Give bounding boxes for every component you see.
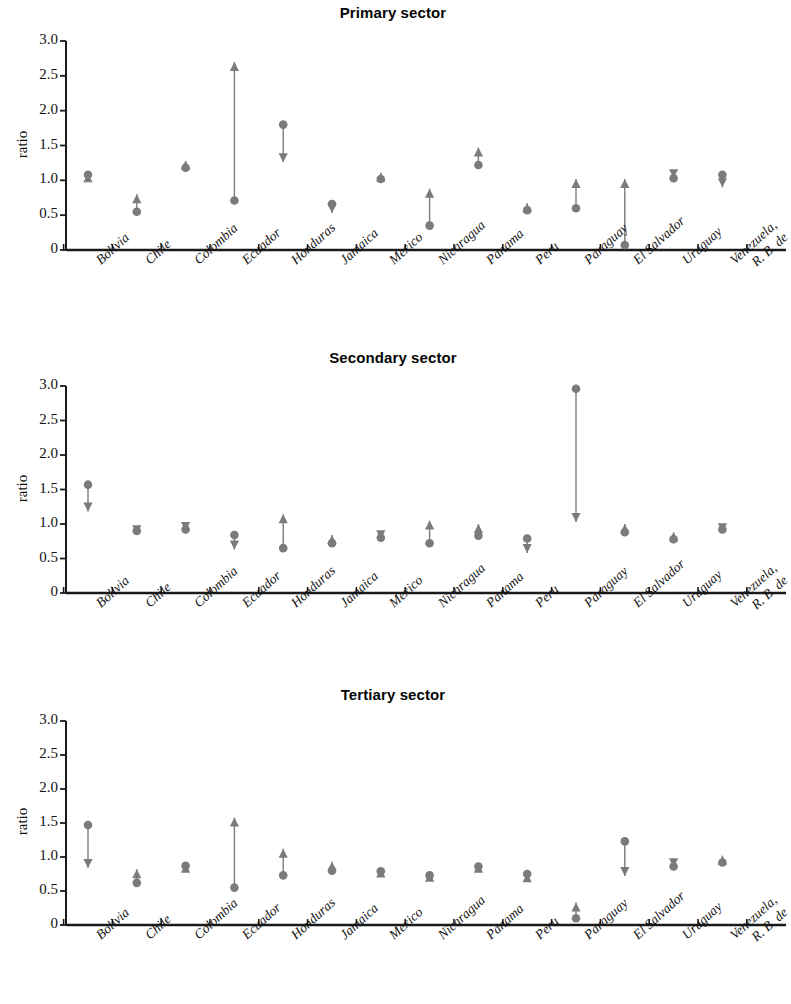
data-point-group [181,862,190,873]
arrow-marker [571,903,580,912]
data-point-group [669,858,678,871]
data-point-group [669,169,678,182]
data-point-group [376,867,385,878]
arrow-marker [425,521,434,530]
data-point-group [230,818,239,892]
arrow-marker [571,513,580,522]
arrow-marker [279,514,288,523]
data-point-group [474,862,483,873]
circle-marker [84,170,93,179]
data-point-group [523,203,532,214]
circle-marker [474,531,483,540]
circle-marker [572,204,581,213]
circle-marker [718,858,727,867]
data-point-group [718,170,727,187]
data-point-group [83,480,92,511]
circle-marker [230,196,239,205]
circle-marker [669,535,678,544]
circle-marker [279,871,288,880]
data-point-group [474,524,483,540]
chart-panel: Secondary sectorratio3.02.52.01.51.00.50… [0,345,786,680]
circle-marker [621,837,630,846]
circle-marker [230,531,239,540]
circle-marker [523,534,532,543]
arrow-marker [230,541,239,550]
circle-marker [718,170,727,179]
data-point-group [718,856,727,867]
data-point-group [132,869,141,887]
circle-marker [328,539,337,548]
arrow-marker [132,869,141,878]
data-point-group [474,148,483,170]
data-point-group [181,522,190,534]
arrow-marker [230,62,239,71]
circle-marker [425,871,434,880]
circle-marker [474,161,483,170]
arrow-marker [230,818,239,827]
data-point-group [279,514,288,552]
circle-marker [425,539,434,548]
arrow-marker [571,179,580,188]
arrow-marker [620,179,629,188]
arrow-marker [279,153,288,162]
data-point-group [571,903,580,923]
circle-marker [669,174,678,183]
circle-marker [425,221,434,230]
circle-marker [133,527,142,536]
circle-marker [377,175,386,184]
data-point-group [83,170,92,182]
circle-marker [181,862,190,871]
circle-marker [181,525,190,534]
data-point-group [376,173,385,184]
data-point-group [376,530,385,542]
data-point-group [425,871,434,882]
arrow-marker [523,544,532,553]
chart-panel: Primary sectorratio3.02.52.01.51.00.50Bo… [0,0,786,340]
arrow-marker [279,849,288,858]
circle-marker [669,862,678,871]
circle-marker [474,862,483,871]
circle-marker [181,163,190,172]
arrow-marker [474,148,483,157]
circle-marker [523,206,532,215]
circle-marker [84,480,93,489]
circle-marker [718,525,727,534]
data-point-group [327,200,336,213]
arrow-marker [83,503,92,512]
data-point-group [279,120,288,162]
data-point-group [132,194,141,216]
data-point-group [571,384,580,521]
circle-marker [621,528,630,537]
data-point-group [83,821,92,868]
data-point-group [620,524,629,537]
data-point-group [620,837,629,876]
circle-marker [279,120,288,129]
circle-marker [621,241,630,250]
circle-marker [572,914,581,923]
circle-marker [328,866,337,875]
circle-marker [572,384,581,393]
arrow-marker [718,178,727,187]
circle-marker [133,207,142,216]
data-point-group [230,531,239,550]
circle-marker [328,200,337,209]
plot-canvas [0,0,786,340]
data-point-group [279,849,288,880]
plot-canvas [0,345,786,680]
data-point-group [523,870,532,883]
chart-panel: Tertiary sectorratio3.02.52.01.51.00.50B… [0,680,786,1004]
data-point-group [327,535,336,548]
arrow-marker [620,867,629,876]
plot-canvas [0,680,786,1004]
data-point-group [230,62,239,205]
circle-marker [133,879,142,888]
circle-marker [377,867,386,876]
circle-marker [279,544,288,553]
circle-marker [230,883,239,892]
circle-marker [377,534,386,543]
data-point-group [181,161,190,172]
data-point-group [571,179,580,213]
arrow-marker [425,189,434,198]
data-point-group [327,862,336,875]
